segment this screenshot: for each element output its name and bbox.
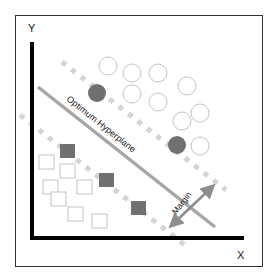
circle-point xyxy=(99,57,117,75)
circle-point xyxy=(178,77,196,95)
square-support-vector xyxy=(99,173,114,187)
circle-point xyxy=(191,137,209,155)
square-point xyxy=(92,214,107,228)
square-point xyxy=(51,192,66,206)
square-support-vector xyxy=(60,144,75,158)
square-point xyxy=(60,164,75,178)
square-point xyxy=(68,207,83,221)
circle-point xyxy=(173,112,191,130)
diagram-frame xyxy=(16,16,263,267)
square-point xyxy=(39,155,54,169)
circle-point xyxy=(123,85,141,103)
square-support-vector xyxy=(131,201,146,215)
circle-point xyxy=(123,64,141,82)
circle-support-vector xyxy=(88,84,106,102)
circle-point xyxy=(149,93,167,111)
y-axis-label: Y xyxy=(28,22,36,34)
square-point xyxy=(77,180,92,194)
circle-point xyxy=(149,64,167,82)
svm-diagram: Optimum Hyperplane Y X Margin xyxy=(0,0,274,279)
circle-point xyxy=(191,104,209,122)
circle-support-vector xyxy=(168,136,186,154)
x-axis-label: X xyxy=(237,249,245,261)
